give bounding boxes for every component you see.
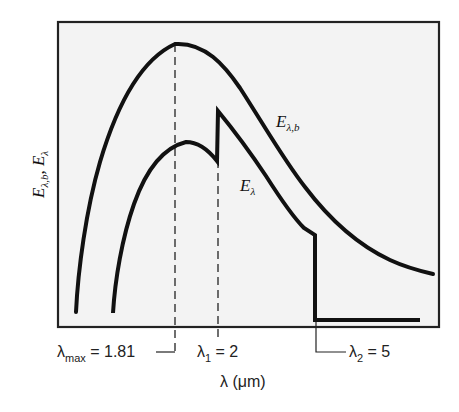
lambda-1-label: λ1 = 2 <box>197 343 238 364</box>
lambda-max-label: λmax = 1.81 <box>57 343 135 364</box>
chart: Eλ,b Eλ Eλ,b, Eλ λmax = 1.81 λ1 = 2 λ2 =… <box>0 0 459 412</box>
x-axis-label: λ (μm) <box>220 373 266 390</box>
y-axis-label: Eλ,b, Eλ <box>29 151 50 199</box>
lambda-2-label: λ2 = 5 <box>349 343 390 364</box>
